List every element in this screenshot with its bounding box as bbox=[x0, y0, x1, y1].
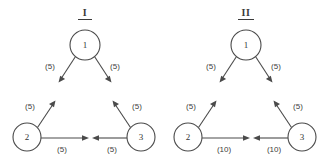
panel-i-node-1-label: 1 bbox=[83, 40, 88, 50]
edge-line bbox=[256, 57, 270, 79]
panel-i: I (5) (5) (5) bbox=[13, 7, 155, 154]
panel-ii-edge-2-up-right-label: (5) bbox=[186, 102, 196, 111]
diagram-canvas: I (5) (5) (5) bbox=[0, 0, 322, 162]
edge-line bbox=[199, 105, 214, 128]
panel-i-edge-3-left-label: (5) bbox=[107, 145, 117, 154]
panel-ii-edge-2-right: (10) bbox=[202, 135, 250, 154]
panel-i-node-1: 1 bbox=[70, 30, 100, 60]
panel-i-node-3: 3 bbox=[127, 123, 155, 151]
panel-i-node-2: 2 bbox=[13, 123, 41, 151]
panel-i-edge-1-down-left: (5) bbox=[45, 57, 75, 83]
panel-ii-edge-3-left-label: (10) bbox=[267, 145, 282, 154]
panel-ii-edge-1-down-right: (5) bbox=[256, 57, 282, 83]
panel-i-edge-2-up-right-label: (5) bbox=[25, 102, 35, 111]
figure-root: I (5) (5) (5) bbox=[0, 0, 322, 162]
panel-i-edge-3-left: (5) bbox=[92, 135, 127, 154]
panel-i-edge-3-up-left-label: (5) bbox=[132, 102, 142, 111]
panel-ii-edge-1-down-left: (5) bbox=[206, 57, 236, 83]
panel-i-title: I bbox=[83, 7, 87, 18]
panel-i-edge-1-down-right-label: (5) bbox=[110, 62, 120, 71]
panel-ii-node-2-label: 2 bbox=[186, 132, 191, 142]
panel-i-edge-1-down-right: (5) bbox=[95, 57, 121, 83]
panel-ii: II (5) (5) (5) bbox=[174, 7, 316, 154]
panel-i-edge-2-right-label: (5) bbox=[57, 145, 67, 154]
panel-i-node-3-label: 3 bbox=[139, 132, 144, 142]
panel-ii-edge-1-down-left-label: (5) bbox=[206, 62, 216, 71]
arrowhead-icon bbox=[253, 135, 260, 141]
panel-ii-edge-3-up-left-label: (5) bbox=[293, 102, 303, 111]
panel-ii-edge-2-right-label: (10) bbox=[217, 145, 232, 154]
panel-ii-edge-3-left: (10) bbox=[253, 135, 288, 154]
edge-line bbox=[62, 57, 76, 79]
panel-ii-node-1: 1 bbox=[231, 30, 261, 60]
edge-line bbox=[277, 105, 292, 128]
panel-i-edge-2-right: (5) bbox=[41, 135, 89, 154]
panel-i-edge-1-down-left-label: (5) bbox=[45, 62, 55, 71]
edge-line bbox=[223, 57, 237, 79]
edge-line bbox=[116, 105, 131, 128]
arrowhead-icon bbox=[243, 135, 250, 141]
panel-i-node-2-label: 2 bbox=[25, 132, 30, 142]
panel-ii-title: II bbox=[242, 7, 251, 18]
panel-ii-node-3: 3 bbox=[288, 123, 316, 151]
panel-ii-node-3-label: 3 bbox=[300, 132, 305, 142]
panel-ii-edge-1-down-right-label: (5) bbox=[271, 62, 281, 71]
edge-line bbox=[95, 57, 109, 79]
arrowhead-icon bbox=[82, 135, 89, 141]
panel-ii-node-1-label: 1 bbox=[244, 40, 249, 50]
panel-ii-node-2: 2 bbox=[174, 123, 202, 151]
edge-line bbox=[38, 105, 53, 128]
arrowhead-icon bbox=[92, 135, 99, 141]
